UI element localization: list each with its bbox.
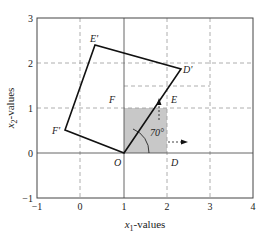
svg-text:0: 0 <box>28 148 33 159</box>
x-tick-labels: −1 0 1 2 3 4 <box>32 201 256 212</box>
svg-text:2: 2 <box>28 58 33 69</box>
angle-label: 70° <box>150 127 164 138</box>
x-axis-label: x1-values <box>124 218 166 233</box>
label-E: E <box>170 94 177 105</box>
svg-text:0: 0 <box>78 201 83 212</box>
svg-text:4: 4 <box>251 201 256 212</box>
rotation-diagram: −1 0 1 2 3 4 3 2 1 0 −1 x1-values x2-val… <box>0 0 266 237</box>
svg-text:1: 1 <box>28 103 33 114</box>
svg-text:−1: −1 <box>32 201 43 212</box>
label-O: O <box>114 157 121 168</box>
label-F: F <box>108 94 116 105</box>
y-tick-labels: 3 2 1 0 −1 <box>22 13 33 204</box>
svg-text:3: 3 <box>208 201 213 212</box>
arrow-right-icon <box>168 140 188 145</box>
grid <box>37 18 253 198</box>
svg-text:−1: −1 <box>22 193 33 204</box>
label-D: D <box>170 157 179 168</box>
svg-text:3: 3 <box>28 13 33 24</box>
label-D-prime: D' <box>182 64 193 75</box>
svg-text:2: 2 <box>165 201 170 212</box>
label-E-prime: E' <box>89 33 99 44</box>
svg-text:1: 1 <box>122 201 127 212</box>
y-axis-label: x2-values <box>4 88 19 130</box>
label-F-prime: F' <box>51 125 61 136</box>
